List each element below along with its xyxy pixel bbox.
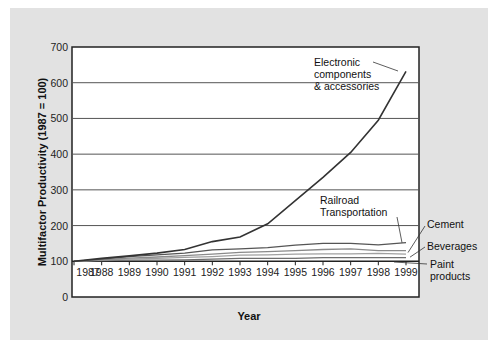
y-tick-label-700: 700 xyxy=(50,41,68,53)
x-tick-label-1995: 1995 xyxy=(284,266,308,278)
x-tick-label-1999: 1999 xyxy=(394,266,418,278)
annotation-label-line: Railroad xyxy=(320,194,359,206)
annotation-label-line: Electronic xyxy=(314,56,360,68)
x-tick-label-1988: 1988 xyxy=(90,266,114,278)
line-chart: 0100200300400500600700 19871988198919901… xyxy=(0,0,497,352)
x-tick-label-1992: 1992 xyxy=(201,266,225,278)
y-tick-label-300: 300 xyxy=(50,184,68,196)
y-tick-label-600: 600 xyxy=(50,77,68,89)
annotation-label-line: components xyxy=(314,68,371,80)
x-tick-label-1998: 1998 xyxy=(367,266,391,278)
annotation-label-line: products xyxy=(430,270,470,282)
x-tick-label-1990: 1990 xyxy=(145,266,169,278)
annotation-label-line: Beverages xyxy=(427,240,477,252)
annotation-label-line: & accessories xyxy=(314,80,379,92)
annotation-label-line: Paint xyxy=(430,258,454,270)
y-tick-labels: 0100200300400500600700 xyxy=(50,41,68,303)
y-tick-label-200: 200 xyxy=(50,220,68,232)
annotation-label-line: Cement xyxy=(427,218,464,230)
y-tick-label-500: 500 xyxy=(50,112,68,124)
x-tick-label-1996: 1996 xyxy=(311,266,335,278)
x-tick-label-1989: 1989 xyxy=(118,266,142,278)
y-tick-label-0: 0 xyxy=(62,291,68,303)
y-tick-label-400: 400 xyxy=(50,148,68,160)
x-tick-label-1997: 1997 xyxy=(339,266,363,278)
x-tick-label-1991: 1991 xyxy=(173,266,197,278)
x-tick-label-1994: 1994 xyxy=(256,266,280,278)
y-tick-label-100: 100 xyxy=(50,255,68,267)
x-tick-label-1993: 1993 xyxy=(228,266,252,278)
x-axis-title: Year xyxy=(237,310,261,322)
y-axis-title: Multifactor Productivity (1987 = 100) xyxy=(36,77,48,266)
annotation-beverages: Beverages xyxy=(410,240,477,257)
annotation-label-line: Transportation xyxy=(320,206,387,218)
